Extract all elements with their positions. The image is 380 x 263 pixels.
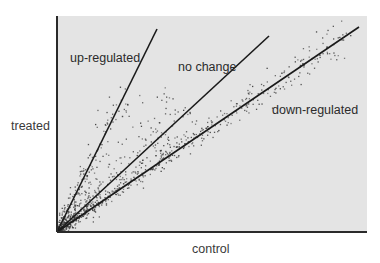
annotation-up-regulated: up-regulated [70,52,140,65]
x-axis-label: control [192,243,230,256]
annotation-no-change: no change [178,61,236,74]
scatter-chart [0,0,380,263]
annotation-down-regulated: down-regulated [272,104,358,117]
y-axis-label: treated [11,120,50,133]
